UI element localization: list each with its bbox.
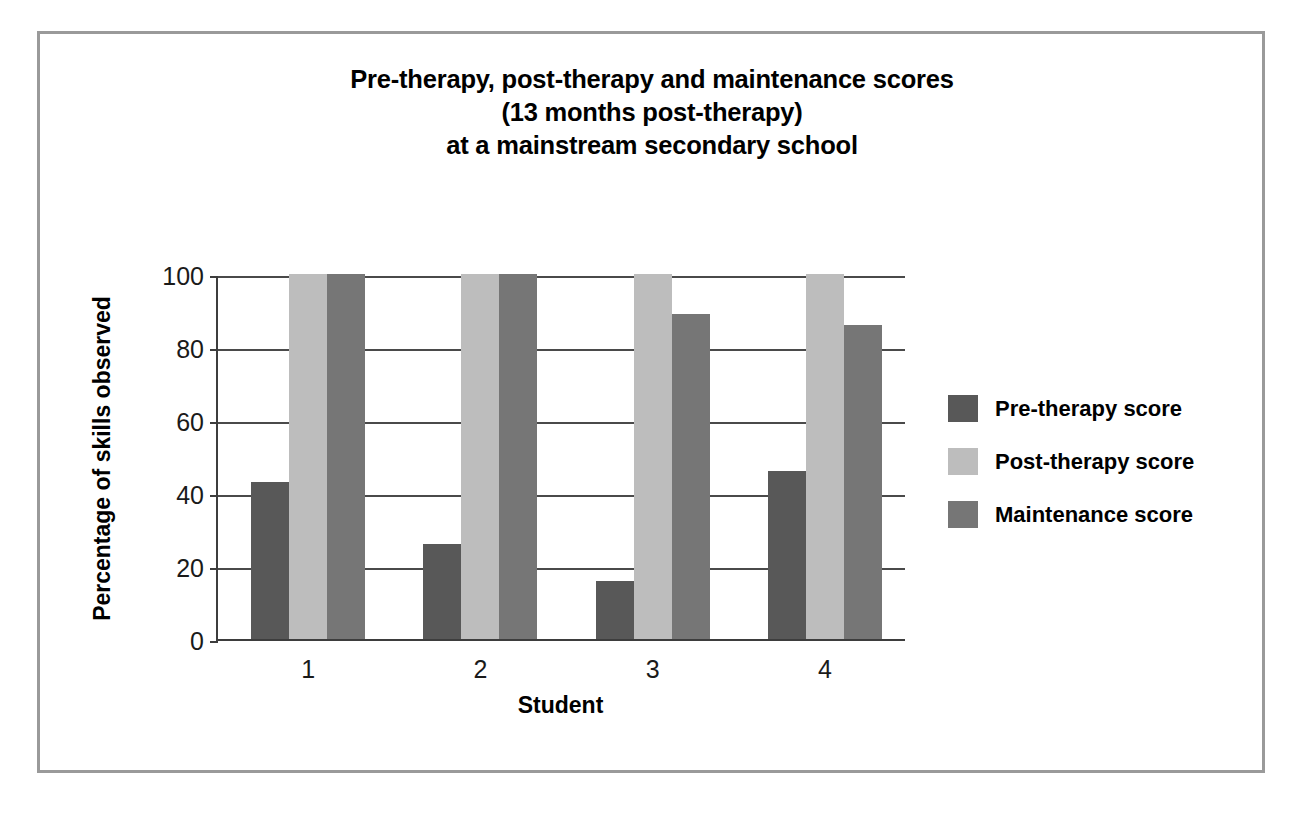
bar[interactable] [423, 544, 461, 639]
chart-title-line-2: (13 months post-therapy) [0, 96, 1304, 129]
bar[interactable] [806, 274, 844, 639]
x-axis-title: Student [216, 692, 905, 719]
x-tick-label-3: 3 [646, 655, 660, 684]
bar-group-2 [423, 276, 537, 639]
bar[interactable] [844, 325, 882, 639]
y-tick-mark-60 [210, 422, 218, 424]
y-tick-label-100: 100 [162, 262, 204, 291]
legend-item-label: Maintenance score [995, 502, 1193, 528]
bar[interactable] [672, 314, 710, 639]
y-tick-mark-80 [210, 349, 218, 351]
chart-title-line-3: at a mainstream secondary school [0, 129, 1304, 162]
bar-group-1 [251, 276, 365, 639]
y-tick-mark-20 [210, 568, 218, 570]
legend-swatch-icon [948, 501, 978, 528]
bar[interactable] [251, 482, 289, 639]
bar[interactable] [461, 274, 499, 639]
chart-title-line-1: Pre-therapy, post-therapy and maintenanc… [0, 63, 1304, 96]
bar[interactable] [499, 274, 537, 639]
y-tick-label-40: 40 [176, 481, 204, 510]
plot-area: 020406080100 1234 [216, 276, 905, 641]
y-tick-mark-0 [210, 641, 218, 643]
x-tick-label-2: 2 [473, 655, 487, 684]
legend-item[interactable]: Pre-therapy score [948, 382, 1194, 435]
bar[interactable] [596, 581, 634, 639]
bar[interactable] [327, 274, 365, 639]
bar[interactable] [634, 274, 672, 639]
bar-group-3 [596, 276, 710, 639]
x-axis-title-label: Student [518, 692, 604, 718]
y-tick-label-80: 80 [176, 335, 204, 364]
x-tick-label-4: 4 [818, 655, 832, 684]
legend-swatch-icon [948, 395, 978, 422]
y-axis-title-label: Percentage of skills observed [89, 296, 116, 621]
y-tick-mark-40 [210, 495, 218, 497]
bars-layer [218, 276, 905, 639]
legend-item[interactable]: Post-therapy score [948, 435, 1194, 488]
chart-title: Pre-therapy, post-therapy and maintenanc… [0, 63, 1304, 162]
x-tick-label-1: 1 [301, 655, 315, 684]
y-tick-mark-100 [210, 276, 218, 278]
chart-legend: Pre-therapy scorePost-therapy scoreMaint… [948, 382, 1194, 541]
y-tick-label-0: 0 [190, 627, 204, 656]
bar[interactable] [289, 274, 327, 639]
y-tick-label-20: 20 [176, 554, 204, 583]
legend-swatch-icon [948, 448, 978, 475]
y-tick-label-60: 60 [176, 408, 204, 437]
legend-item-label: Pre-therapy score [995, 396, 1182, 422]
y-axis-title: Percentage of skills observed [85, 276, 119, 641]
bar-group-4 [768, 276, 882, 639]
bar[interactable] [768, 471, 806, 639]
legend-item-label: Post-therapy score [995, 449, 1194, 475]
legend-item[interactable]: Maintenance score [948, 488, 1194, 541]
